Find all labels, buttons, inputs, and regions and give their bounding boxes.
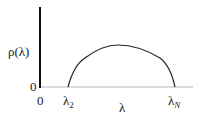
y-origin-label: 0 (30, 80, 37, 93)
lambda-n-marker: λN (168, 94, 180, 107)
x-origin-label: 0 (37, 94, 44, 107)
density-curve (68, 45, 175, 87)
lambda-2-marker: λ2 (63, 94, 74, 107)
x-axis-label: λ (119, 101, 125, 114)
y-axis-label: ρ(λ) (8, 45, 29, 58)
